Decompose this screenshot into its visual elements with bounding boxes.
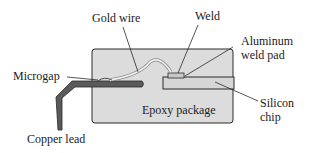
silicon-chip — [163, 77, 234, 89]
label-gold-wire: Gold wire — [92, 12, 140, 25]
label-aluminum-line1: Aluminum — [241, 35, 293, 48]
aluminum-weld-pad — [168, 73, 184, 78]
label-silicon-line2: chip — [260, 111, 281, 124]
label-silicon-line1: Silicon — [260, 97, 294, 110]
label-weld: Weld — [195, 10, 220, 23]
label-copper-lead: Copper lead — [27, 133, 85, 146]
label-epoxy-package: Epoxy package — [142, 104, 216, 117]
label-aluminum-line2: weld pad — [241, 49, 285, 62]
label-microgap: Microgap — [13, 70, 60, 83]
